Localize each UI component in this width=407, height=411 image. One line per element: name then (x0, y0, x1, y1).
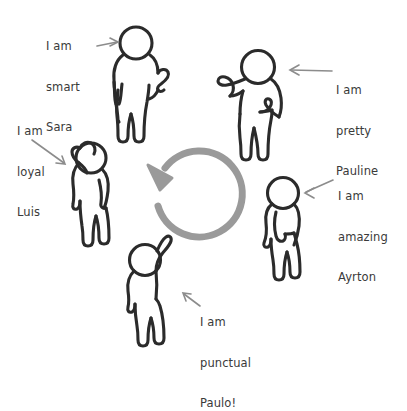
circular-rotation-arrow (148, 151, 242, 237)
arrow-to-ayrton (305, 180, 333, 198)
label-ayrton-line-2: amazing (338, 231, 388, 245)
label-luis: I am loyal Luis (17, 98, 45, 247)
label-ayrton: I am amazing Ayrton (338, 163, 388, 312)
label-paulo-line-3: Paulo! (200, 397, 251, 411)
figure-ayrton (264, 178, 300, 281)
label-pauline-line-1: I am (336, 84, 378, 98)
arrow-to-pauline (290, 65, 332, 75)
figure-paulo (128, 236, 171, 346)
label-sara-line-2: smart (46, 81, 80, 95)
arrow-to-sara (97, 38, 118, 46)
label-ayrton-line-1: I am (338, 190, 388, 204)
label-luis-line-3: Luis (17, 206, 45, 220)
label-paulo: I am punctual Paulo! (200, 289, 251, 411)
figure-sara (114, 27, 169, 142)
label-luis-line-1: I am (17, 125, 45, 139)
label-paulo-line-1: I am (200, 316, 251, 330)
label-pauline-line-2: pretty (336, 125, 378, 139)
label-sara-line-3: Sara (46, 121, 80, 135)
label-luis-line-2: loyal (17, 166, 45, 180)
figure-pauline (218, 51, 281, 161)
label-sara-line-1: I am (46, 40, 80, 54)
label-sara: I am smart Sara (46, 13, 80, 162)
label-paulo-line-2: punctual (200, 357, 251, 371)
label-ayrton-line-3: Ayrton (338, 271, 388, 285)
arrow-to-paulo (183, 293, 200, 306)
